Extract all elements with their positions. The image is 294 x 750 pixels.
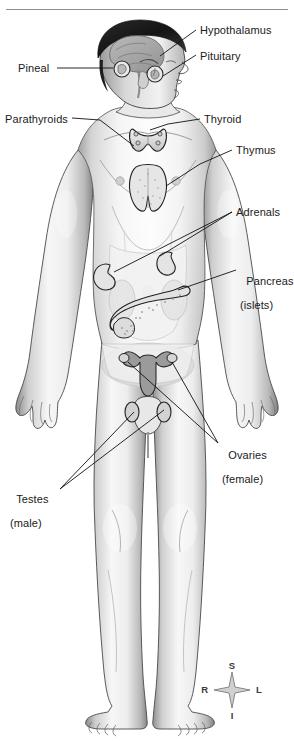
compass-left-label: L xyxy=(256,684,262,695)
human-body-illustration xyxy=(16,20,278,736)
compass-right-label: R xyxy=(201,684,208,695)
label-pancreas: Pancreas (islets) xyxy=(240,263,294,323)
label-pineal: Pineal xyxy=(18,62,49,74)
compass-star-icon xyxy=(214,672,250,708)
label-pituitary: Pituitary xyxy=(200,50,241,62)
pineal-gland xyxy=(114,61,130,77)
head xyxy=(98,20,188,109)
compass-superior-label: S xyxy=(229,660,235,671)
label-thyroid: Thyroid xyxy=(204,113,241,125)
label-parathyroids: Parathyroids xyxy=(5,113,68,125)
compass-inferior-label: I xyxy=(231,710,234,721)
orientation-compass: S I R L xyxy=(201,660,262,721)
label-thymus: Thymus xyxy=(236,144,276,156)
label-hypothalamus: Hypothalamus xyxy=(200,24,272,36)
label-testes: Testes (male) xyxy=(10,481,49,541)
torso xyxy=(78,86,216,387)
label-ovaries: Ovaries (female) xyxy=(222,437,267,497)
pituitary-gland xyxy=(147,66,163,82)
label-adrenals: Adrenals xyxy=(236,206,280,218)
thymus-gland xyxy=(129,165,166,212)
